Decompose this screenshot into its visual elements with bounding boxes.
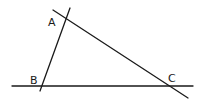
vertex-label-b: B [30,74,38,87]
triangle-diagram: A B C [0,0,204,102]
vertex-label-a: A [48,16,56,29]
vertex-label-c: C [168,72,176,85]
